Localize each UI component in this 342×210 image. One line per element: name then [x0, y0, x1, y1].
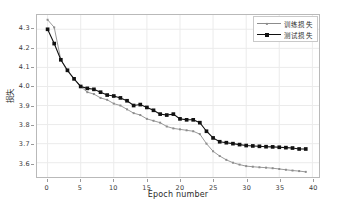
y-tick-label: 4.2	[19, 44, 30, 52]
y-tick-mark	[31, 28, 34, 29]
y-tick-label: 4.3	[19, 24, 30, 32]
y-tick-label: 4.0	[19, 82, 30, 90]
y-tick-label: 4.1	[19, 63, 30, 71]
y-tick-mark	[31, 125, 34, 126]
x-tick-mark	[147, 179, 148, 182]
legend-item-train: 训练损失	[257, 19, 313, 28]
y-tick-label: 3.6	[19, 160, 30, 168]
legend-swatch-test	[257, 30, 281, 39]
x-tick-mark	[80, 179, 81, 182]
legend-swatch-train	[257, 19, 281, 28]
y-tick-label: 3.8	[19, 121, 30, 129]
y-axis-label: 损失	[4, 89, 15, 103]
x-tick-mark	[280, 179, 281, 182]
x-tick-mark	[180, 179, 181, 182]
loss-curve-figure: 3.63.73.83.94.04.14.24.3 损失 051015202530…	[0, 0, 342, 210]
series-test	[46, 27, 308, 150]
y-tick-mark	[31, 164, 34, 165]
x-tick-mark	[113, 179, 114, 182]
x-tick-mark	[47, 179, 48, 182]
y-tick-mark	[31, 48, 34, 49]
chart-legend: 训练损失 测试损失	[253, 16, 318, 42]
y-tick-mark	[31, 106, 34, 107]
x-tick-mark	[247, 179, 248, 182]
x-tick-mark	[213, 179, 214, 182]
y-tick-mark	[31, 67, 34, 68]
y-tick-mark	[31, 144, 34, 145]
y-tick-mark	[31, 86, 34, 87]
legend-label-test: 测试损失	[284, 30, 313, 40]
y-tick-label: 3.7	[19, 140, 30, 148]
x-tick-mark	[313, 179, 314, 182]
legend-item-test: 测试损失	[257, 30, 313, 39]
legend-label-train: 训练损失	[284, 19, 313, 29]
x-axis-label: Epoch number	[36, 190, 320, 199]
y-tick-label: 3.9	[19, 102, 30, 110]
